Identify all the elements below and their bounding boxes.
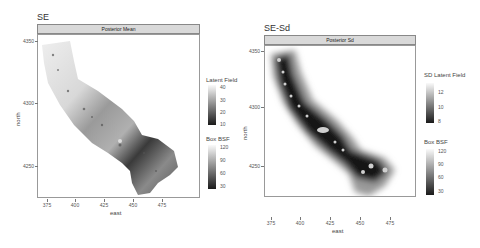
facet-strip: Posterior Sd bbox=[264, 35, 416, 45]
legend-tick: 120 bbox=[438, 148, 446, 154]
x-axis-label: east bbox=[110, 210, 121, 216]
colorbar-latent-field bbox=[208, 85, 216, 125]
legend-tick: 30 bbox=[438, 188, 444, 194]
x-tick: 425 bbox=[320, 220, 340, 226]
y-axis-label: north bbox=[15, 112, 21, 126]
legend-tick: 8 bbox=[438, 118, 441, 124]
y-tick: 4350 bbox=[10, 38, 34, 44]
facet-strip: Posterior Mean bbox=[37, 24, 200, 34]
x-tick: 450 bbox=[123, 202, 143, 208]
legend-title: Box BSF bbox=[424, 139, 448, 145]
figure-posterior-sd: SE-Sd Posterior Sd 4350 4300 4250 375 40… bbox=[240, 0, 480, 248]
x-tick: 400 bbox=[290, 220, 310, 226]
legend-tick: 60 bbox=[438, 174, 444, 180]
legend-tick: 90 bbox=[438, 161, 444, 167]
legend-title: Latent Field bbox=[206, 77, 237, 83]
y-tick: 4300 bbox=[236, 104, 260, 110]
legend-tick: 10 bbox=[220, 121, 226, 127]
x-tick: 400 bbox=[65, 202, 85, 208]
legend-tick: 10 bbox=[438, 104, 444, 110]
y-axis-label: north bbox=[242, 126, 248, 140]
plot-panel bbox=[264, 45, 416, 197]
heatmap-mean bbox=[38, 35, 200, 198]
legend-tick: 30 bbox=[220, 183, 226, 189]
y-tick: 4350 bbox=[236, 48, 260, 54]
y-tick: 4300 bbox=[10, 100, 34, 106]
y-tick: 4250 bbox=[10, 163, 34, 169]
figure-posterior-mean: SE Posterior Mean bbox=[0, 0, 240, 248]
legend-tick: 60 bbox=[220, 170, 226, 176]
y-tick: 4250 bbox=[236, 163, 260, 169]
x-tick: 450 bbox=[350, 220, 370, 226]
legend-tick: 40 bbox=[220, 84, 226, 90]
figure-title: SE bbox=[37, 12, 49, 22]
legend-title: Box BSF bbox=[206, 136, 230, 142]
legend-tick: 30 bbox=[220, 97, 226, 103]
x-axis-label: east bbox=[332, 228, 343, 234]
plot-panel bbox=[37, 34, 200, 198]
x-tick: 375 bbox=[37, 202, 57, 208]
heatmap-sd bbox=[265, 46, 416, 197]
x-tick: 425 bbox=[94, 202, 114, 208]
x-tick: 475 bbox=[152, 202, 172, 208]
colorbar-box-bsf bbox=[426, 149, 434, 195]
legend-tick: 90 bbox=[220, 157, 226, 163]
figure-title: SE-Sd bbox=[264, 23, 290, 33]
x-tick: 375 bbox=[261, 220, 281, 226]
colorbar-sd-latent-field bbox=[426, 83, 434, 123]
legend-tick: 12 bbox=[438, 89, 444, 95]
x-tick: 475 bbox=[380, 220, 400, 226]
legend-tick: 120 bbox=[220, 144, 228, 150]
legend-title: SD Latent Field bbox=[424, 72, 465, 78]
legend-tick: 20 bbox=[220, 109, 226, 115]
colorbar-box-bsf bbox=[208, 145, 216, 189]
